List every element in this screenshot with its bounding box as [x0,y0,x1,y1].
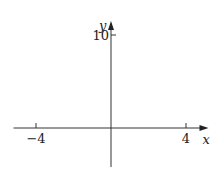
coordinate-axes-chart: x y −4410 [0,0,220,170]
x-axis-label: x [203,132,211,147]
x-axis-arrow-icon [200,125,209,131]
y-tick-label: 10 [92,28,109,43]
x-tick-label: −4 [26,131,45,146]
x-tick-label: 4 [182,131,190,146]
